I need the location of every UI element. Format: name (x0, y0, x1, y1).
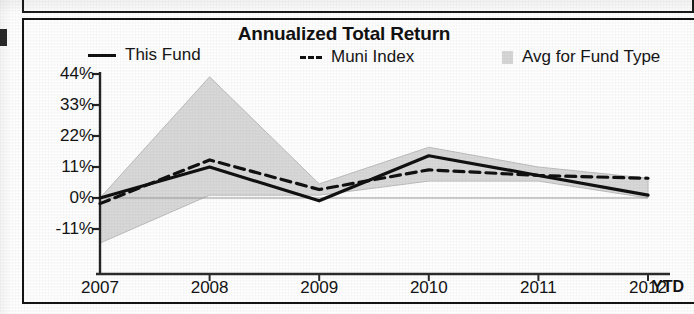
y-axis-tick-label: -11% (32, 219, 94, 239)
series-band-avg-for-fund-type (100, 77, 648, 243)
ytd-label: YTD (652, 278, 684, 296)
annualized-total-return-panel: Annualized Total Return This Fund Muni I… (22, 18, 694, 304)
left-edge-artifact (0, 29, 7, 46)
screenshot-root: Annualized Total Return This Fund Muni I… (0, 0, 694, 314)
chart-canvas (24, 20, 692, 302)
x-axis-tick-label: 2010 (410, 278, 448, 298)
x-axis-tick-label: 2011 (520, 278, 557, 298)
y-axis-tick-label: 22% (32, 126, 94, 146)
x-axis-tick-label: 2009 (300, 278, 338, 298)
y-axis-tick-label: 11% (32, 157, 94, 177)
y-axis-tick-label: 33% (32, 95, 94, 115)
x-axis-tick-label: 2007 (81, 278, 119, 298)
x-axis-tick-label: 2008 (191, 278, 229, 298)
y-axis-tick-label: 0% (32, 188, 94, 208)
y-axis-tick-labels: 44%33%22%11%0%-11% (32, 20, 94, 302)
y-axis-tick-label: 44% (32, 64, 94, 84)
upper-panel-edge (22, 0, 694, 13)
plot-area: 44%33%22%11%0%-11% 200720082009201020112… (24, 20, 692, 302)
